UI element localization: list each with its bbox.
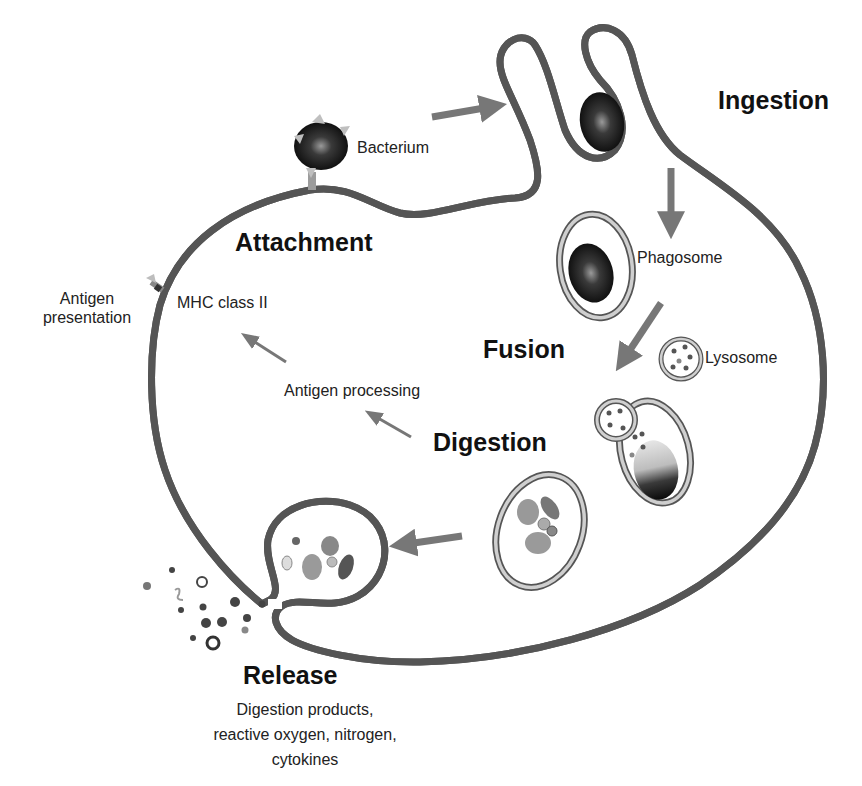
release-description: Digestion products, reactive oxygen, nit… (185, 697, 425, 772)
stage-label-attachment: Attachment (235, 230, 373, 255)
bacterium-attached (294, 114, 350, 190)
digestion-vesicle (481, 462, 600, 600)
label-antigen-presentation: Antigen presentation (22, 289, 152, 327)
membrane-gap (268, 599, 282, 609)
label-phagosome: Phagosome (637, 248, 722, 267)
phagocytosis-diagram (0, 0, 862, 786)
release-description-line2: reactive oxygen, nitrogen, (185, 722, 425, 747)
stage-label-fusion: Fusion (483, 337, 565, 362)
release-description-line1: Digestion products, (185, 697, 425, 722)
label-bacterium: Bacterium (357, 138, 429, 157)
stage-label-digestion: Digestion (433, 430, 547, 455)
label-antigen-presentation-line1: Antigen (22, 289, 152, 308)
release-description-line3: cytokines (185, 747, 425, 772)
arrow-to-ingestion (432, 106, 496, 117)
label-mhc-class-ii: MHC class II (177, 293, 268, 312)
label-lysosome: Lysosome (705, 348, 777, 367)
label-antigen-processing: Antigen processing (284, 381, 420, 400)
phagosome (553, 209, 639, 322)
stage-label-ingestion: Ingestion (718, 88, 829, 113)
arrow-to-release (400, 536, 462, 545)
release-vesicle-contents (282, 536, 357, 582)
released-particles (143, 567, 266, 649)
arrow-processing-to-presentation (247, 337, 286, 362)
label-antigen-presentation-line2: presentation (22, 308, 152, 327)
stage-label-release: Release (243, 663, 338, 688)
arrow-digestion-to-processing (371, 414, 411, 437)
lysosome (661, 339, 701, 379)
phagolysosome (597, 393, 701, 511)
arrow-to-fusion (622, 303, 661, 362)
